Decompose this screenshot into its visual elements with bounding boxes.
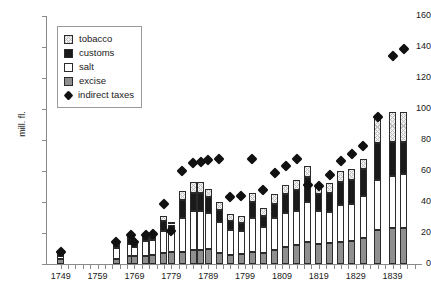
bar-segment-customs — [360, 169, 367, 195]
bar-segment-tobacco — [227, 214, 234, 220]
bar-segment-tobacco — [249, 193, 256, 202]
bar-segment-salt — [304, 202, 311, 242]
bar-segment-salt — [179, 218, 186, 252]
chart-legend: tobaccocustomssaltexciseindirect taxes — [57, 26, 142, 108]
x-tick-mark — [120, 265, 121, 269]
bar-segment-excise — [389, 228, 396, 264]
x-tick-mark — [179, 265, 180, 269]
bar-segment-tobacco — [238, 216, 245, 223]
bar-1816 — [304, 16, 311, 264]
bar-1813 — [293, 16, 300, 264]
x-axis-line — [46, 264, 422, 265]
bar-segment-excise — [326, 243, 333, 264]
bar-1789 — [205, 16, 212, 264]
x-tick-mark — [260, 265, 261, 269]
bar-segment-excise — [113, 259, 120, 264]
bar-segment-excise — [374, 230, 381, 264]
bar-segment-excise — [142, 256, 149, 264]
legend-item-excise: excise — [64, 74, 134, 88]
x-tick-mark — [105, 265, 106, 269]
bar-1825 — [337, 16, 344, 264]
bar-segment-salt — [142, 241, 149, 257]
bar-segment-excise — [360, 238, 367, 264]
bar-segment-tobacco — [389, 112, 396, 141]
legend-swatch-icon — [64, 77, 73, 86]
bar-segment-salt — [216, 222, 223, 253]
bar-segment-tobacco — [216, 202, 223, 210]
bar-segment-tobacco — [293, 180, 300, 189]
x-tick-label: 1759 — [78, 271, 118, 282]
indirect-taxes-stacked-bar-chart: mill. fl. 020406080100120140160 17491759… — [0, 0, 431, 290]
x-tick-label: 1749 — [41, 271, 81, 282]
legend-item-salt: salt — [64, 60, 134, 74]
bar-segment-salt — [326, 212, 333, 243]
x-tick-mark — [341, 265, 342, 269]
x-tick-mark — [90, 265, 91, 269]
x-tick-mark — [385, 265, 386, 269]
x-tick-mark — [208, 265, 209, 269]
bar-1798 — [238, 16, 245, 264]
bar-segment-tobacco — [197, 182, 204, 193]
x-tick-mark — [348, 265, 349, 269]
bar-segment-excise — [348, 241, 355, 264]
legend-swatch-icon — [64, 63, 73, 72]
x-tick-mark — [127, 265, 128, 269]
bar-segment-tobacco — [168, 222, 175, 224]
x-tick-mark — [319, 265, 320, 269]
bar-1782 — [179, 16, 186, 264]
bar-segment-tobacco — [160, 216, 167, 221]
legend-label: indirect taxes — [78, 90, 134, 100]
bar-segment-customs — [197, 193, 204, 212]
bar-1822 — [326, 16, 333, 264]
x-tick-label: 1819 — [299, 271, 339, 282]
bar-segment-excise — [149, 255, 156, 264]
bar-segment-salt — [227, 230, 234, 255]
x-tick-mark — [193, 265, 194, 269]
bar-segment-salt — [360, 196, 367, 238]
bar-segment-salt — [205, 213, 212, 249]
x-tick-label: 1779 — [151, 271, 191, 282]
legend-label: tobacco — [79, 34, 112, 44]
bar-segment-tobacco — [282, 185, 289, 194]
bar-segment-salt — [271, 218, 278, 251]
bar-segment-excise — [293, 245, 300, 264]
bar-segment-tobacco — [337, 171, 344, 182]
bar-segment-excise — [179, 252, 186, 264]
bar-segment-customs — [238, 223, 245, 231]
x-tick-mark — [267, 265, 268, 269]
x-tick-mark — [378, 265, 379, 269]
bar-segment-customs — [293, 190, 300, 212]
bar-segment-excise — [260, 253, 267, 264]
bar-segment-excise — [249, 252, 256, 264]
bar-segment-customs — [337, 182, 344, 205]
bar-segment-salt — [389, 176, 396, 229]
bar-segment-tobacco — [179, 191, 186, 200]
bar-segment-tobacco — [326, 183, 333, 192]
x-tick-mark — [275, 265, 276, 269]
x-tick-mark — [252, 265, 253, 269]
legend-swatch-icon — [64, 49, 73, 58]
bar-segment-customs — [190, 193, 197, 212]
x-tick-mark — [400, 265, 401, 269]
x-tick-label: 1769 — [114, 271, 154, 282]
x-tick-mark — [304, 265, 305, 269]
bar-segment-customs — [260, 216, 267, 227]
bar-segment-tobacco — [271, 194, 278, 203]
bar-segment-tobacco — [190, 182, 197, 193]
bar-segment-salt — [315, 211, 322, 244]
bar-1810 — [282, 16, 289, 264]
bar-segment-salt — [249, 218, 256, 252]
bar-segment-excise — [57, 259, 64, 264]
bar-segment-excise — [160, 253, 167, 264]
bar-segment-tobacco — [348, 169, 355, 180]
bar-1819 — [315, 16, 322, 264]
bar-segment-tobacco — [205, 189, 212, 198]
x-tick-mark — [112, 265, 113, 269]
bar-segment-salt — [197, 211, 204, 250]
bar-1772 — [142, 16, 149, 264]
bar-segment-customs — [400, 142, 407, 175]
bar-segment-excise — [197, 250, 204, 264]
bar-1801 — [249, 16, 256, 264]
x-tick-mark — [393, 265, 394, 269]
bar-segment-customs — [271, 204, 278, 218]
